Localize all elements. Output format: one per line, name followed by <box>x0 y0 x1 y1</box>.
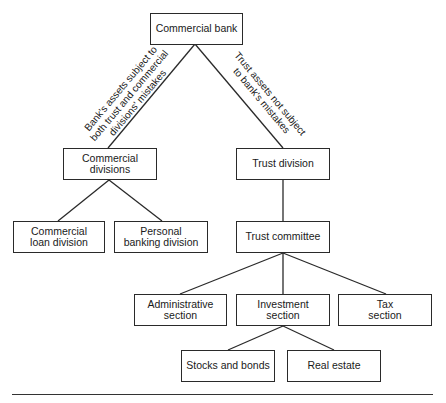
bottom-rule <box>12 394 433 395</box>
node-investment-section: Investment section <box>236 294 330 326</box>
node-commercial-divisions: Commercial divisions <box>63 148 157 180</box>
edge-committee-tax <box>283 253 386 294</box>
node-tax-section: Tax section <box>338 294 432 326</box>
edge-committee-admin <box>180 253 283 294</box>
edge-commercial-loan <box>58 180 109 221</box>
node-real-estate: Real estate <box>287 350 381 382</box>
edge-investment-realestate <box>283 326 334 350</box>
node-personal-banking-division: Personal banking division <box>114 221 208 253</box>
node-stocks-and-bonds: Stocks and bonds <box>181 350 275 382</box>
node-trust-division: Trust division <box>236 148 330 180</box>
node-administrative-section: Administrative section <box>134 294 227 326</box>
edge-commercial-personal <box>109 180 162 221</box>
node-trust-committee: Trust committee <box>236 221 330 253</box>
node-commercial-loan-division: Commercial loan division <box>13 221 105 253</box>
edge-investment-stocks <box>228 326 283 350</box>
